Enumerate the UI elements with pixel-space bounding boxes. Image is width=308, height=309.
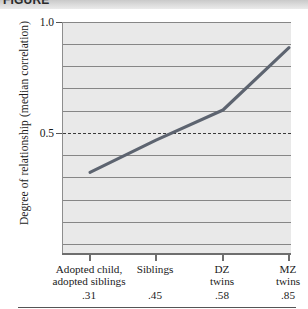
- x-label-mz-line1: MZ: [258, 263, 308, 275]
- x-value-dz-twins: .58: [192, 289, 252, 301]
- x-tick-dz-twins: [222, 254, 224, 261]
- x-label-siblings: Siblings .45: [115, 263, 195, 301]
- bottom-rule: [18, 307, 296, 308]
- x-tick-adopted: [89, 254, 91, 261]
- x-value-mz-twins: .85: [258, 289, 308, 301]
- x-label-dz-line1: DZ: [192, 263, 252, 275]
- y-tick-label-0.5: 0.5: [24, 128, 54, 140]
- x-label-mz-line2: twins: [258, 275, 308, 287]
- x-axis-labels: Adopted child, adopted siblings .31 Sibl…: [0, 263, 308, 309]
- x-label-dz-line2: twins: [192, 275, 252, 287]
- x-label-siblings-line1: Siblings: [115, 263, 195, 275]
- plot-area: [62, 22, 291, 253]
- y-tick-label-1: 1.0: [24, 17, 54, 29]
- figure-container: Degree of relationship (median correlati…: [0, 9, 308, 309]
- y-axis-tick-labels: 1.0 0.5: [22, 9, 54, 259]
- x-label-dz-twins: DZ twins .58: [192, 263, 252, 301]
- x-label-mz-twins: MZ twins .85: [258, 263, 308, 301]
- x-value-siblings: .45: [115, 289, 195, 301]
- x-tick-mz-twins: [288, 254, 290, 261]
- figure-header-strip: FIGURE: [0, 0, 308, 9]
- data-series-line: [63, 22, 291, 253]
- x-axis-line: [62, 253, 291, 255]
- x-tick-siblings: [155, 254, 157, 261]
